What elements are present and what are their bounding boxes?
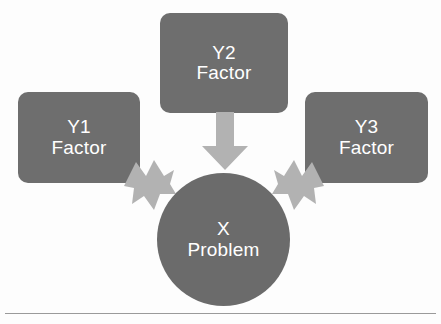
node-x-problem[interactable]: X Problem bbox=[157, 173, 290, 306]
node-y1-factor[interactable]: Y1 Factor bbox=[18, 92, 140, 183]
node-y3-subtitle: Factor bbox=[339, 138, 394, 158]
node-y2-title: Y2 bbox=[212, 43, 236, 63]
node-x-subtitle: Problem bbox=[187, 240, 259, 260]
node-y2-subtitle: Factor bbox=[196, 63, 251, 83]
node-y3-title: Y3 bbox=[355, 117, 379, 137]
node-y1-subtitle: Factor bbox=[51, 138, 106, 158]
node-y2-factor[interactable]: Y2 Factor bbox=[160, 13, 288, 113]
node-x-title: X bbox=[217, 219, 230, 239]
node-y1-title: Y1 bbox=[67, 117, 91, 137]
diagram-canvas: Y2 Factor Y1 Factor Y3 Factor X Problem bbox=[0, 0, 441, 324]
arrow-down-icon bbox=[200, 112, 250, 172]
baseline-rule bbox=[5, 313, 436, 314]
